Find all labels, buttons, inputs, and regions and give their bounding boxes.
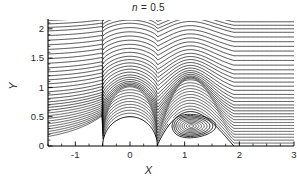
y-tick-label: 1.5 xyxy=(31,52,44,63)
y-tick-label: 1 xyxy=(39,82,44,93)
x-tick-label: 1 xyxy=(182,149,187,160)
streamline-figure: n = 0.5 -1012300.511.52 Y X xyxy=(0,0,297,186)
x-tick-label: 2 xyxy=(237,149,242,160)
streamline xyxy=(48,30,294,42)
y-axis-label: Y xyxy=(4,66,22,106)
vortex-ring xyxy=(180,120,204,133)
streamline-plot: -1012300.511.52 xyxy=(0,0,297,186)
y-tick-label: 2 xyxy=(39,23,44,34)
recirculation-vortex xyxy=(172,114,216,138)
streamline xyxy=(48,34,294,46)
x-tick-label: -1 xyxy=(71,149,79,160)
streamline xyxy=(48,38,294,51)
x-tick-label: 3 xyxy=(291,149,296,160)
streamline xyxy=(48,15,294,25)
streamline xyxy=(48,18,294,29)
vortex-ring xyxy=(189,125,194,128)
x-tick-label: 0 xyxy=(127,149,132,160)
plot-axes xyxy=(48,19,294,146)
vortex-ring xyxy=(187,123,197,128)
x-axis-label: X xyxy=(0,164,297,176)
y-tick-label: 0.5 xyxy=(31,111,44,122)
streamline xyxy=(48,14,294,22)
streamline xyxy=(48,42,294,56)
y-tick-label: 0 xyxy=(39,140,44,151)
streamline-curves xyxy=(48,14,294,146)
streamline xyxy=(48,26,294,37)
